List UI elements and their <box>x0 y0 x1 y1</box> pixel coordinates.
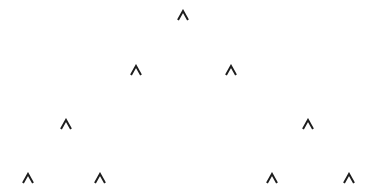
caret-up-icon <box>342 172 356 184</box>
tree-node-leaf-3 <box>265 172 279 184</box>
caret-up-icon <box>301 118 315 130</box>
tree-node-leaf-4 <box>342 172 356 184</box>
tree-node-level1-right <box>224 64 238 76</box>
tree-diagram-canvas <box>0 0 376 196</box>
caret-up-icon <box>59 118 73 130</box>
caret-up-icon <box>224 64 238 76</box>
caret-up-icon <box>129 64 143 76</box>
tree-node-root <box>176 9 190 21</box>
caret-up-icon <box>21 172 35 184</box>
tree-node-level2-left <box>59 118 73 130</box>
caret-up-icon <box>176 9 190 21</box>
caret-up-icon <box>265 172 279 184</box>
tree-node-leaf-2 <box>93 172 107 184</box>
tree-node-leaf-1 <box>21 172 35 184</box>
tree-node-level1-left <box>129 64 143 76</box>
tree-node-level2-right <box>301 118 315 130</box>
caret-up-icon <box>93 172 107 184</box>
